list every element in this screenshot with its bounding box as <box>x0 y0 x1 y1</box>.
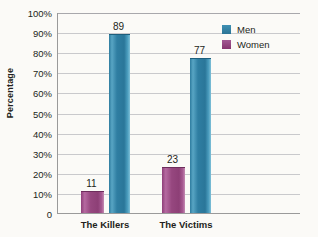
gridline-50 <box>58 114 300 115</box>
legend: Men Women <box>222 25 270 49</box>
y-tick-90: 90% <box>7 28 57 39</box>
gridline-70 <box>58 73 300 74</box>
gridline-60 <box>58 93 300 94</box>
value-label-victims-men: 77 <box>180 45 220 56</box>
legend-label-women: Women <box>237 40 270 50</box>
value-label-killers-men: 89 <box>99 21 139 32</box>
legend-label-men: Men <box>237 25 255 35</box>
bar-killers-women[interactable] <box>81 191 104 213</box>
y-tick-50: 50% <box>7 108 57 119</box>
y-tick-80: 80% <box>7 48 57 59</box>
bar-chart: Percentage 100% 90% 80% 70% 60% 50% 40% … <box>0 0 318 237</box>
y-tick-40: 40% <box>7 128 57 139</box>
legend-swatch-women-icon <box>222 40 231 49</box>
y-tick-60: 60% <box>7 88 57 99</box>
value-label-victims-women: 23 <box>153 154 193 165</box>
bar-victims-men[interactable] <box>190 58 211 213</box>
y-tick-70: 70% <box>7 68 57 79</box>
x-tick-the-victims: The Victims <box>141 219 231 230</box>
legend-item-men[interactable]: Men <box>222 25 270 35</box>
x-tick-the-killers: The Killers <box>60 219 150 230</box>
gridline-40 <box>58 134 300 135</box>
y-tick-20: 20% <box>7 168 57 179</box>
y-tick-0: 0 <box>7 209 57 220</box>
bar-victims-women[interactable] <box>162 167 185 213</box>
value-label-killers-women: 11 <box>72 178 112 189</box>
legend-swatch-men-icon <box>222 25 231 34</box>
bar-killers-men[interactable] <box>109 34 130 213</box>
gridline-100 <box>58 13 300 14</box>
legend-item-women[interactable]: Women <box>222 40 270 50</box>
y-tick-100: 100% <box>7 8 57 19</box>
y-tick-10: 10% <box>7 188 57 199</box>
y-tick-30: 30% <box>7 148 57 159</box>
